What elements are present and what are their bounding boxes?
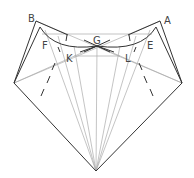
label-e: E	[147, 40, 153, 51]
label-g: G	[93, 35, 101, 46]
geometry-diagram: B A G F E K L	[0, 0, 194, 178]
label-f: F	[42, 40, 48, 51]
label-b: B	[28, 13, 35, 24]
label-a: A	[164, 15, 171, 26]
label-l: L	[125, 53, 131, 64]
label-k: K	[66, 53, 73, 64]
